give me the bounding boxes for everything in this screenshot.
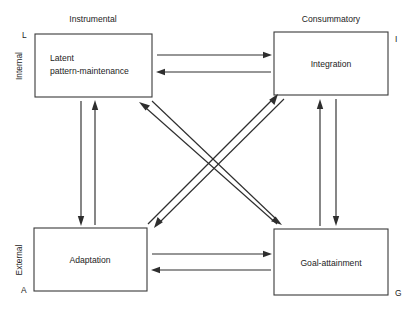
corner-letter-I: I (395, 34, 397, 44)
arrow-G-to-A-bottom (151, 267, 271, 273)
corner-letter-L: L (22, 30, 27, 40)
box-label-integration: Integration (311, 59, 352, 69)
agil-diagram: Latent pattern-maintenance Integration A… (0, 0, 418, 321)
arrow-G-to-I-right (317, 99, 323, 226)
arrow-I-to-G-right (333, 99, 339, 226)
axis-label-consummatory: Consummatory (302, 14, 361, 24)
diagram-canvas: Latent pattern-maintenance Integration A… (0, 0, 418, 321)
arrow-L-to-A-left (78, 101, 84, 226)
axis-label-external: External (14, 245, 24, 276)
box-label-latent-line2: pattern-maintenance (50, 66, 129, 76)
arrow-A-to-I-diagonal (148, 94, 278, 224)
corner-letter-A: A (21, 285, 27, 295)
arrow-I-to-L-top (156, 69, 271, 75)
box-latent-pattern-maintenance: Latent pattern-maintenance (35, 34, 152, 97)
axis-label-instrumental: Instrumental (69, 14, 116, 24)
arrow-A-to-L-left (92, 100, 98, 225)
box-label-latent-line1: Latent (50, 53, 75, 63)
box-goal-attainment: Goal-attainment (274, 229, 388, 295)
corner-letter-G: G (395, 288, 402, 298)
arrow-L-to-I-top (157, 52, 272, 58)
box-label-adaptation: Adaptation (69, 255, 110, 265)
box-adaptation: Adaptation (34, 228, 147, 291)
box-integration: Integration (274, 32, 388, 95)
axis-label-internal: Internal (14, 52, 24, 80)
box-label-goal-attainment: Goal-attainment (300, 258, 362, 268)
arrow-A-to-G-bottom (152, 251, 272, 257)
arrow-G-to-L-diagonal (139, 102, 277, 224)
